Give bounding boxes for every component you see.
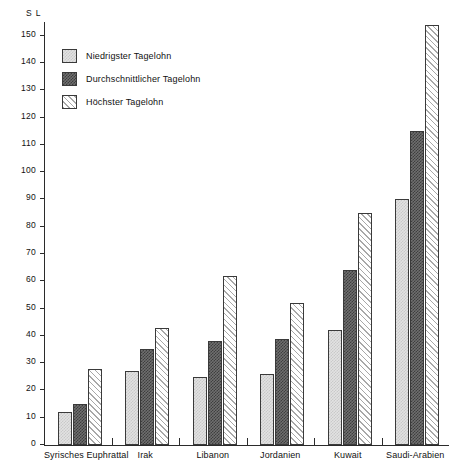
category-label: Syrisches Euphrattal	[44, 450, 112, 460]
bar-low	[260, 374, 274, 445]
y-tick-label-80: 80	[26, 220, 36, 230]
bar-high	[290, 303, 304, 445]
y-axis-unit-label: S L	[26, 8, 41, 18]
y-tick-label-100: 100	[21, 165, 36, 175]
category-label: Saudi-Arabien	[382, 450, 450, 460]
y-tick-label-90: 90	[26, 192, 36, 202]
category-label: Irak	[112, 450, 180, 460]
bar-chart: S L 010203040506070809010011012013014015…	[0, 0, 459, 475]
bar-mid	[343, 270, 357, 445]
bar-low	[58, 412, 72, 445]
legend-item-durchschnittlicher: Durchschnittlicher Tagelohn	[62, 67, 200, 90]
bar-low	[328, 330, 342, 445]
legend-item-niedrigster: Niedrigster Tagelohn	[62, 44, 200, 67]
bar-low	[395, 199, 409, 445]
legend-item-hoechster: Höchster Tagelohn	[62, 90, 200, 113]
y-tick-label-50: 50	[26, 302, 36, 312]
y-tick-label-0: 0	[31, 438, 36, 448]
y-tick-label-120: 120	[21, 111, 36, 121]
bar-mid	[208, 341, 222, 445]
y-tick-label-20: 20	[26, 383, 36, 393]
legend-label-high: Höchster Tagelohn	[86, 97, 163, 107]
category-label: Libanon	[179, 450, 247, 460]
bar-high	[88, 369, 102, 445]
legend-label-mid: Durchschnittlicher Tagelohn	[86, 74, 200, 84]
legend-swatch-icon-mid	[62, 72, 77, 86]
y-tick-label-10: 10	[26, 411, 36, 421]
y-tick-label-150: 150	[21, 29, 36, 39]
y-tick-label-60: 60	[26, 274, 36, 284]
bar-mid	[275, 339, 289, 445]
y-tick-label-40: 40	[26, 329, 36, 339]
legend-swatch-icon-high	[62, 95, 77, 109]
bar-high	[358, 213, 372, 445]
y-tick-label-110: 110	[22, 138, 36, 148]
bar-low	[125, 371, 139, 445]
y-tick-label-130: 130	[21, 83, 36, 93]
legend-label-low: Niedrigster Tagelohn	[86, 51, 171, 61]
bar-high	[223, 276, 237, 445]
bar-group	[314, 22, 382, 445]
bar-high	[425, 25, 439, 445]
bar-mid	[73, 404, 87, 445]
y-tick-label-70: 70	[26, 247, 36, 257]
legend-swatch-icon-low	[62, 49, 77, 63]
bar-low	[193, 377, 207, 445]
bar-high	[155, 328, 169, 445]
category-label: Kuwait	[314, 450, 382, 460]
bar-mid	[410, 131, 424, 445]
y-tick-label-30: 30	[26, 356, 36, 366]
bar-group	[247, 22, 315, 445]
x-axis-line	[44, 445, 449, 446]
bar-group	[382, 22, 450, 445]
bar-mid	[140, 349, 154, 445]
y-tick-label-140: 140	[21, 56, 36, 66]
category-label: Jordanien	[247, 450, 315, 460]
chart-legend: Niedrigster Tagelohn Durchschnittlicher …	[62, 44, 200, 113]
